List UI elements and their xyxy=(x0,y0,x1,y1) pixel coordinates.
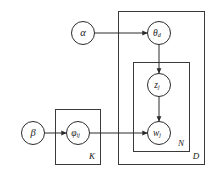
node-z[interactable]: zj xyxy=(148,74,171,97)
node-phi[interactable]: φij xyxy=(67,122,90,145)
lda-plate-diagram: α θd zj wj β φij xyxy=(0,0,214,178)
plate-label-group: D N K xyxy=(88,138,200,161)
plate-d-label: D xyxy=(192,151,200,161)
node-beta-label: β xyxy=(29,127,36,138)
edge-group xyxy=(45,33,160,133)
plate-n-label: N xyxy=(177,138,185,148)
node-alpha[interactable]: α xyxy=(72,22,95,45)
node-w[interactable]: wj xyxy=(148,122,171,145)
node-alpha-label: α xyxy=(80,27,86,38)
node-theta[interactable]: θd xyxy=(148,22,171,45)
diagram-canvas: α θd zj wj β φij xyxy=(0,0,214,178)
node-beta[interactable]: β xyxy=(22,122,45,145)
plate-k-label: K xyxy=(88,151,96,161)
node-group: α θd zj wj β φij xyxy=(22,22,171,145)
